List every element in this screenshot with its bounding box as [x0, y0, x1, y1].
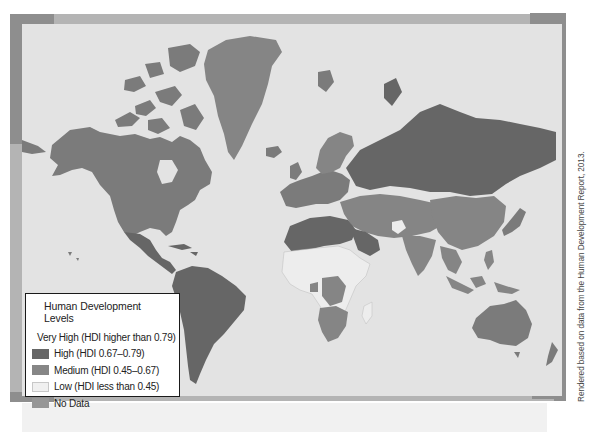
- region-arctic-islands: [115, 44, 204, 134]
- region-australia: [472, 300, 532, 346]
- frame-corner-top-left-side: [10, 14, 22, 144]
- legend-label-very-high: Very High (HDI higher than 0.79): [37, 332, 176, 343]
- legend-item-no-data: No Data: [32, 395, 173, 412]
- region-east-asia: [430, 196, 506, 250]
- swatch-low: [32, 382, 49, 392]
- swatch-no-data: [32, 398, 49, 408]
- legend-label-medium: Medium (HDI 0.45–0.67): [54, 365, 159, 376]
- region-mexico-central-america: [124, 232, 176, 274]
- swatch-medium: [32, 365, 49, 375]
- legend-label-high: High (HDI 0.67–0.79): [54, 348, 145, 359]
- region-japan: [502, 208, 526, 236]
- legend-label-low: Low (HDI less than 0.45): [54, 381, 159, 392]
- legend-item-high: High (HDI 0.67–0.79): [32, 346, 173, 363]
- region-new-zealand: [546, 342, 558, 366]
- source-credit: Rendered based on data from the Human De…: [576, 151, 586, 402]
- legend-item-very-high: Very High (HDI higher than 0.79): [32, 329, 173, 346]
- region-north-america: [50, 127, 212, 236]
- legend-title: Human Development Levels: [32, 300, 173, 324]
- region-greenland: [204, 36, 282, 160]
- swatch-high: [32, 349, 49, 359]
- region-southern-africa: [318, 306, 348, 342]
- legend-label-no-data: No Data: [54, 398, 89, 409]
- region-south-asia: [402, 236, 436, 276]
- region-russia: [346, 104, 556, 196]
- region-north-africa: [284, 216, 356, 252]
- region-south-america: [172, 266, 246, 384]
- map-legend: Human Development Levels Very High (HDI …: [25, 293, 180, 397]
- legend-item-low: Low (HDI less than 0.45): [32, 379, 173, 396]
- region-indonesia: [446, 276, 520, 294]
- legend-item-medium: Medium (HDI 0.45–0.67): [32, 362, 173, 379]
